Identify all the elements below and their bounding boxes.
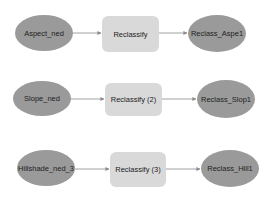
- input-data-hillshade-ned-3[interactable]: Hillshade_ned_3: [17, 150, 75, 186]
- tool-reclassify-3[interactable]: Reclassify (3): [110, 152, 166, 187]
- output-data-reclass-slop1[interactable]: Reclass_Slop1: [197, 80, 255, 118]
- output-data-reclass-aspe1[interactable]: Reclass_Aspe1: [188, 15, 246, 52]
- tool-reclassify-2[interactable]: Reclassify (2): [105, 83, 162, 116]
- node-label: Reclassify (2): [111, 95, 156, 104]
- input-data-aspect-ned[interactable]: Aspect_ned: [15, 15, 73, 51]
- node-label: Reclass_Hill1: [207, 164, 252, 173]
- node-label: Reclass_Aspe1: [191, 29, 243, 38]
- node-label: Hillshade_ned_3: [18, 164, 74, 173]
- node-label: Aspect_ned: [24, 29, 64, 38]
- node-label: Reclass_Slop1: [201, 95, 251, 104]
- input-data-slope-ned[interactable]: Slope_ned: [13, 81, 71, 116]
- node-label: Slope_ned: [24, 94, 60, 103]
- tool-reclassify[interactable]: Reclassify: [102, 16, 159, 52]
- node-label: Reclassify: [113, 30, 147, 39]
- output-data-reclass-hill1[interactable]: Reclass_Hill1: [201, 150, 259, 187]
- node-label: Reclassify (3): [115, 165, 160, 174]
- model-builder-canvas: Aspect_ned Reclassify Reclass_Aspe1 Slop…: [0, 0, 266, 201]
